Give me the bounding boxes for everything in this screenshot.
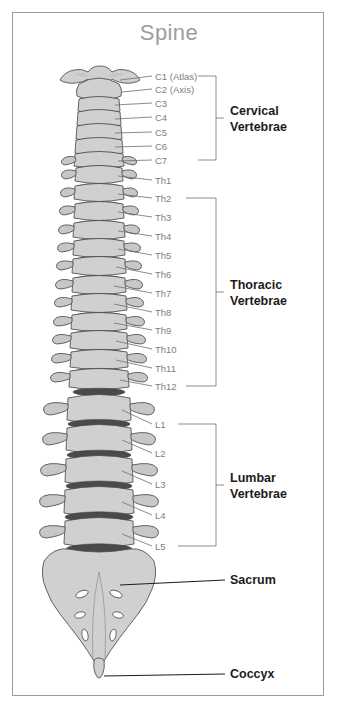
group-label-lumbar-line2: Vertebrae (230, 487, 287, 501)
vertebra-label-list: C1 (Atlas) C2 (Axis) C3 C4 C5 C6 C7 Th1 … (155, 71, 197, 552)
label-th11: Th11 (155, 363, 176, 374)
label-l1: L1 (155, 419, 166, 430)
sacrum (42, 549, 155, 670)
label-th3: Th3 (155, 212, 171, 223)
label-th8: Th8 (155, 307, 171, 318)
label-c7: C7 (155, 155, 167, 166)
vertebra-th9 (54, 313, 145, 332)
vertebra-th6 (57, 257, 142, 276)
vertebra-th2 (61, 184, 138, 202)
label-th5: Th5 (155, 250, 171, 261)
group-brackets (178, 76, 224, 546)
vertebra-l3 (41, 456, 158, 492)
vertebra-th12 (51, 368, 148, 389)
vertebra-l5 (40, 518, 159, 555)
label-th1: Th1 (155, 175, 171, 186)
bracket-lumbar (178, 424, 216, 546)
vertebra-th1 (62, 166, 137, 184)
vertebra-th7 (56, 276, 143, 295)
group-label-thoracic-line2: Vertebrae (230, 294, 287, 308)
label-c2: C2 (Axis) (155, 84, 194, 95)
vertebra-th5 (58, 239, 141, 258)
coccyx (94, 658, 105, 678)
part-label-coccyx: Coccyx (230, 667, 275, 681)
label-c4: C4 (155, 112, 167, 123)
vertebra-th11 (52, 349, 147, 369)
label-th10: Th10 (155, 344, 177, 355)
vertebra-th4 (59, 221, 140, 240)
label-l5: L5 (155, 541, 166, 552)
cervical-vertebrae-group (60, 66, 140, 169)
spine-illustration: C1 (Atlas) C2 (Axis) C3 C4 C5 C6 C7 Th1 … (0, 0, 338, 711)
label-l2: L2 (155, 448, 166, 459)
group-label-cervical-line2: Vertebrae (230, 120, 287, 134)
label-th6: Th6 (155, 269, 171, 280)
vertebra-l1 (44, 395, 155, 429)
label-c1: C1 (Atlas) (155, 71, 197, 82)
bracket-cervical (198, 76, 216, 160)
vertebra-l2 (43, 425, 156, 460)
group-label-lumbar-line1: Lumbar (230, 471, 276, 485)
label-c3: C3 (155, 98, 167, 109)
spine-diagram-page: Spine (0, 0, 338, 711)
thoracic-vertebrae-group (51, 166, 148, 396)
label-th12: Th12 (155, 381, 177, 392)
vertebra-th10 (53, 331, 146, 351)
vertebra-l4 (40, 487, 159, 523)
bracket-thoracic (186, 198, 216, 386)
label-c6: C6 (155, 141, 167, 152)
label-l4: L4 (155, 510, 166, 521)
vertebra-th8 (55, 294, 144, 313)
vertebra-th3 (60, 202, 139, 221)
group-label-cervical-line1: Cervical (230, 104, 279, 118)
label-th7: Th7 (155, 288, 171, 299)
label-th9: Th9 (155, 325, 171, 336)
group-label-list: Cervical Vertebrae Thoracic Vertebrae Lu… (230, 104, 287, 681)
label-th2: Th2 (155, 193, 171, 204)
part-label-sacrum: Sacrum (230, 573, 276, 587)
group-label-thoracic-line1: Thoracic (230, 278, 282, 292)
label-th4: Th4 (155, 231, 171, 242)
label-l3: L3 (155, 479, 166, 490)
label-c5: C5 (155, 127, 167, 138)
sacrum-group (42, 549, 155, 678)
